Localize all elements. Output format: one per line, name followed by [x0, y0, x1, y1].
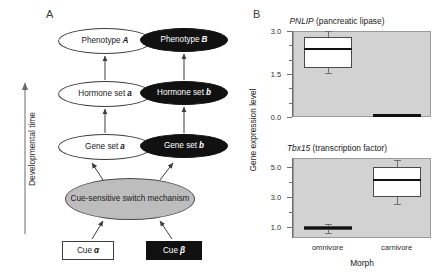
y-tick-label-pnlip-2: 3.0	[259, 27, 281, 36]
node-cue-sensitive-switch[interactable]: Cue-sensitive switch mechanism	[65, 178, 195, 220]
y-tick-label-pnlip-1: 1.5	[259, 70, 281, 79]
y-tick-major-pnlip-1	[287, 74, 292, 75]
boxplot-cap-upper-tbx15-omnivore	[325, 224, 332, 225]
panel-b: B PNLIP (pancreatic lipase) Tbx15 (trans…	[226, 0, 448, 275]
chart-title-pnlip: PNLIP (pancreatic lipase)	[226, 16, 448, 26]
y-tick-major-pnlip-0	[287, 117, 292, 118]
boxplot-cap-lower-tbx15-carnivore	[394, 204, 401, 205]
chart-title-pnlip-gene: PNLIP	[290, 16, 314, 26]
boxplot-box-tbx15-carnivore[interactable]	[373, 167, 421, 197]
figure-root: A Developmental time	[0, 0, 448, 275]
y-tick-label-tbx15-2: 5.0	[259, 163, 281, 172]
chart-title-tbx15: Tbx15 (transcription factor)	[226, 143, 448, 153]
node-hormone-a-emph: a	[125, 89, 132, 98]
node-phenotype-a-label: Phenotype	[81, 36, 120, 45]
x-axis-title: Morph	[293, 258, 431, 268]
node-hormone-set-b[interactable]: Hormone set b	[140, 81, 228, 105]
y-tick-major-tbx15-2	[287, 167, 292, 168]
developmental-time-axis: Developmental time	[18, 82, 32, 234]
y-axis-spine-pnlip	[292, 31, 293, 117]
developmental-time-label: Developmental time	[27, 79, 37, 219]
node-cue-alpha[interactable]: Cue α	[62, 241, 114, 260]
node-phenotype-b[interactable]: Phenotype B	[140, 28, 228, 52]
boxplot-cap-lower-tbx15-omnivore	[325, 233, 332, 234]
node-gene-b-label: Gene set	[164, 141, 197, 150]
node-hormone-b-emph: b	[204, 88, 211, 97]
node-phenotype-a-emph: A	[121, 36, 129, 45]
y-tick-major-tbx15-1	[287, 197, 292, 198]
node-cue-b-emph: β	[178, 246, 185, 255]
node-phenotype-b-label: Phenotype	[160, 35, 199, 44]
node-phenotype-a[interactable]: Phenotype A	[58, 28, 152, 54]
boxplot-whisker-upper-tbx15-carnivore	[397, 160, 398, 167]
node-cue-beta[interactable]: Cue β	[146, 241, 202, 260]
node-gene-set-a[interactable]: Gene set a	[58, 134, 152, 160]
boxplot-cap-lower-pnlip-omnivore	[325, 73, 332, 74]
node-cue-a-label: Cue	[77, 246, 92, 255]
boxplot-cap-upper-tbx15-carnivore	[394, 160, 401, 161]
y-tick-minor-tbx15-1	[289, 182, 292, 183]
node-gene-a-label: Gene set	[85, 142, 118, 151]
y-tick-minor-pnlip-2	[289, 60, 292, 61]
boxplot-median-tbx15-carnivore	[373, 179, 421, 181]
chart-title-tbx15-gene: Tbx15	[287, 143, 310, 153]
y-tick-minor-pnlip-1	[289, 88, 292, 89]
boxplot-cap-upper-pnlip-omnivore	[325, 31, 332, 32]
y-axis-spine-tbx15	[292, 158, 293, 238]
panel-a-label: A	[46, 8, 54, 20]
node-gene-b-emph: b	[197, 141, 204, 150]
y-tick-minor-tbx15-0	[289, 212, 292, 213]
node-cue-a-emph: α	[92, 246, 99, 255]
y-tick-label-tbx15-0: 1.0	[259, 223, 281, 232]
boxplot-box-pnlip-omnivore[interactable]	[304, 37, 352, 68]
y-tick-label-tbx15-1: 3.0	[259, 193, 281, 202]
node-cue-b-label: Cue	[163, 246, 178, 255]
boxplot-median-pnlip-omnivore	[304, 48, 352, 50]
x-tick-label-0: omnivore	[293, 243, 363, 252]
node-gene-a-emph: a	[118, 142, 125, 151]
x-tick-label-1: carnivore	[362, 243, 432, 252]
panel-a: A Developmental time	[0, 0, 226, 275]
node-hormone-a-label: Hormone set	[78, 89, 125, 98]
boxplot-whisker-lower-tbx15-carnivore	[397, 197, 398, 204]
chart-title-pnlip-rest: (pancreatic lipase)	[314, 16, 385, 26]
node-phenotype-b-emph: B	[200, 35, 208, 44]
boxplot-flat-pnlip-carnivore[interactable]	[373, 114, 421, 117]
y-tick-major-pnlip-2	[287, 31, 292, 32]
boxplot-median-tbx15-omnivore	[304, 227, 352, 229]
node-hormone-b-label: Hormone set	[157, 88, 204, 97]
y-tick-label-pnlip-0: 0.0	[259, 113, 281, 122]
y-tick-major-tbx15-0	[287, 227, 292, 228]
y-tick-minor-pnlip-0	[289, 103, 292, 104]
y-axis-title: Gene expression level	[248, 55, 258, 205]
y-tick-minor-pnlip-3	[289, 45, 292, 46]
chart-title-tbx15-rest: (transcription factor)	[310, 143, 387, 153]
node-switch-label: Cue-sensitive switch mechanism	[71, 194, 190, 204]
node-hormone-set-a[interactable]: Hormone set a	[58, 81, 152, 107]
node-gene-set-b[interactable]: Gene set b	[140, 134, 228, 158]
